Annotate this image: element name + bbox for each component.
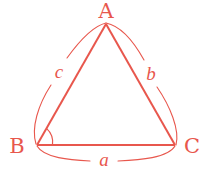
side-a-brace-right (118, 146, 175, 161)
side-b-brace-upper (106, 23, 144, 60)
side-b-brace-lower (157, 87, 177, 145)
side-b-line (106, 24, 175, 145)
side-a-brace-left (37, 146, 90, 161)
side-b-label: b (146, 64, 156, 83)
angle-b-arc (47, 128, 53, 145)
vertex-b-label: B (9, 136, 24, 157)
side-a-label: a (99, 150, 109, 169)
vertex-a-label: A (98, 1, 113, 22)
side-c-line (37, 24, 106, 145)
vertex-c-label: C (184, 136, 200, 157)
side-c-label: c (55, 62, 63, 81)
triangle-diagram: A B C c b a (0, 0, 208, 183)
side-c-brace-upper (67, 23, 106, 58)
